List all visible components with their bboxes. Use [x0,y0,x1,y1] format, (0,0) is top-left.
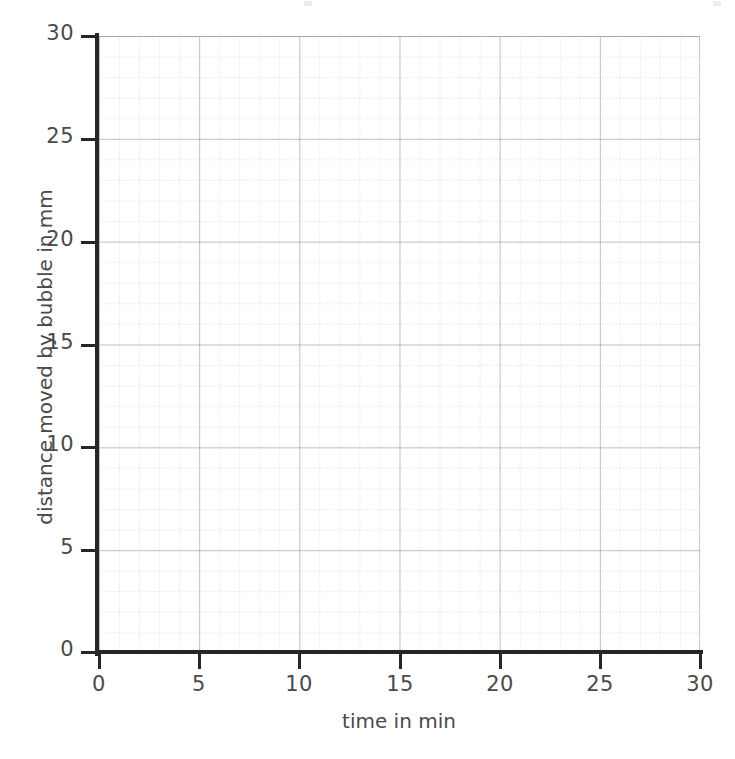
x-tick-25 [599,654,602,669]
y-tick-20 [81,241,96,244]
y-axis-title: distance moved by bubble in mm [33,137,57,577]
x-tick-5 [198,654,201,669]
x-tick-label-25: 25 [570,672,630,696]
y-tick-0 [81,651,96,654]
plot-area [99,36,700,653]
x-tick-15 [399,654,402,669]
x-tick-label-0: 0 [69,672,129,696]
grid-layer [99,36,700,653]
y-tick-15 [81,344,96,347]
y-tick-10 [81,446,96,449]
x-tick-label-20: 20 [470,672,530,696]
x-tick-0 [98,654,101,669]
x-tick-label-30: 30 [670,672,730,696]
x-tick-30 [699,654,702,669]
x-tick-10 [298,654,301,669]
y-tick-25 [81,138,96,141]
y-tick-label-30: 30 [14,21,74,45]
x-tick-20 [499,654,502,669]
y-tick-label-0: 0 [14,637,74,661]
y-tick-30 [81,35,96,38]
scan-artifact-left [304,1,312,6]
x-axis-title: time in min [199,709,599,733]
x-tick-label-15: 15 [370,672,430,696]
y-tick-5 [81,549,96,552]
x-tick-label-10: 10 [269,672,329,696]
scan-artifact-right [713,1,721,6]
graph-paper-figure: 0 5 10 15 20 25 30 30 25 20 15 10 5 0 ti… [0,0,735,759]
x-tick-label-5: 5 [169,672,229,696]
